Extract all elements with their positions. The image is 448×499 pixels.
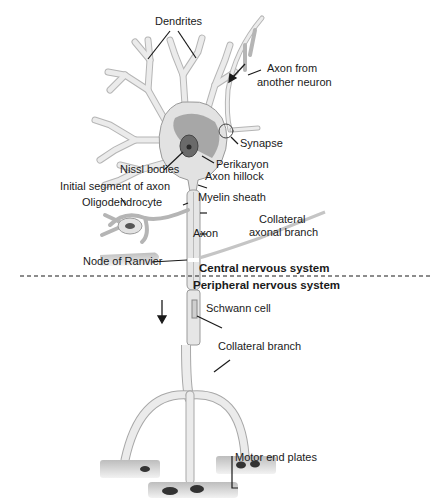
- label-schwann-cell: Schwann cell: [206, 302, 271, 315]
- label-cns: Central nervous system: [199, 262, 329, 275]
- label-collateral-branch: Collateral branch: [218, 340, 301, 353]
- label-pns: Peripheral nervous system: [193, 279, 340, 292]
- nucleolus: [187, 145, 192, 150]
- label-collateral-2: axonal branch: [249, 226, 318, 239]
- label-dendrites: Dendrites: [155, 15, 202, 28]
- node-of-ranvier: [188, 258, 199, 262]
- pns-axon: [186, 290, 200, 400]
- neuron-diagram: [0, 0, 448, 499]
- label-motor-end-plates: Motor end plates: [235, 451, 317, 464]
- axon: [187, 190, 200, 290]
- label-synapse: Synapse: [240, 137, 283, 150]
- label-axon-hillock: Axon hillock: [205, 170, 264, 183]
- label-axon: Axon: [193, 227, 218, 240]
- arrowhead-icon: [158, 316, 166, 323]
- label-nissl-bodies: Nissl bodies: [120, 163, 179, 176]
- oligodendrocyte: [102, 210, 188, 242]
- label-node-of-ranvier: Node of Ranvier: [83, 255, 163, 268]
- label-initial-segment: Initial segment of axon: [60, 180, 170, 193]
- label-axon-from-2: another neuron: [257, 76, 332, 89]
- label-axon-from-1: Axon from: [267, 62, 317, 75]
- label-oligodendrocyte: Oligodendrocyte: [82, 196, 162, 209]
- schwann-cell: [192, 300, 197, 318]
- label-myelin-sheath: Myelin sheath: [198, 191, 266, 204]
- label-collateral-1: Collateral: [259, 213, 305, 226]
